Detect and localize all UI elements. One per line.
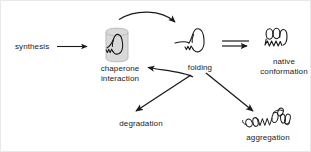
- label-synthesis: synthesis: [15, 42, 49, 52]
- chaperone-barrel-icon: [106, 28, 128, 62]
- label-chaperone-line1: chaperone: [101, 64, 140, 74]
- label-native-conformation: native conformation: [260, 57, 307, 76]
- label-folding: folding: [188, 63, 212, 73]
- label-native-line1: native: [260, 57, 307, 67]
- arrow-chaperone-to-folding: [119, 12, 175, 22]
- folding-intermediate-icon: [175, 29, 204, 52]
- label-degradation: degradation: [119, 119, 162, 129]
- arrow-folding-to-degradation: [136, 75, 191, 111]
- arrow-folding-to-aggregation: [206, 73, 253, 111]
- diagram-canvas: [1, 1, 311, 152]
- protein-aggregate-icon: [243, 107, 292, 127]
- label-native-line2: conformation: [260, 67, 307, 77]
- arrow-folding-to-native-double: [222, 41, 249, 46]
- protein-folding-diagram: synthesis chaperone interaction folding …: [0, 0, 311, 152]
- label-chaperone-line2: interaction: [101, 74, 140, 84]
- arrow-folding-to-chaperone: [148, 68, 193, 78]
- label-chaperone-interaction: chaperone interaction: [101, 64, 140, 83]
- native-protein-icon: [265, 28, 287, 46]
- label-aggregation: aggregation: [246, 133, 289, 143]
